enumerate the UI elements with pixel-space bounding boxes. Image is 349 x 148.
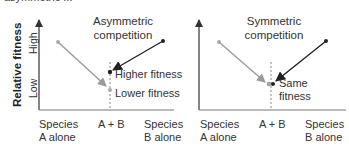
right-x-label-species-b: Species B alone [305, 118, 344, 144]
right-panel-species-a [217, 40, 271, 86]
left-panel-title: Asymmetric competition [84, 14, 162, 42]
left-x-label-mid: A + B [98, 118, 125, 131]
same-line-1: Same [279, 77, 311, 90]
x-label-line: Species [305, 118, 344, 131]
x-label-line: Species [200, 118, 239, 131]
lower-fitness-label: Lower fitness [115, 87, 180, 100]
title-line-1: Symmetric [238, 14, 310, 28]
right-x-label-species-a: Species A alone [200, 118, 239, 144]
x-label-line: B alone [305, 131, 344, 144]
title-line-2: competition [238, 28, 310, 42]
y-tick-low: Low [27, 79, 39, 98]
x-label-line: A alone [39, 131, 78, 144]
x-label-line: Species [39, 118, 78, 131]
same-line-2: fitness [279, 90, 311, 103]
y-axis-label: Relative fitness [11, 23, 23, 107]
title-line-2: competition [84, 28, 162, 42]
y-tick-high: High [27, 32, 39, 54]
x-label-line: A alone [200, 131, 239, 144]
right-panel-title: Symmetric competition [238, 14, 310, 42]
same-fitness-label: Same fitness [279, 77, 311, 103]
left-x-label-species-a: Species A alone [39, 118, 78, 144]
right-x-label-mid: A + B [259, 118, 286, 131]
x-label-line: B alone [144, 131, 183, 144]
x-label-line: Species [144, 118, 183, 131]
title-line-1: Asymmetric [84, 14, 162, 28]
left-x-label-species-b: Species B alone [144, 118, 183, 144]
competition-fitness-figure: asymmetric ... [0, 0, 349, 148]
higher-fitness-label: Higher fitness [115, 68, 182, 81]
left-panel-species-a [56, 40, 112, 92]
